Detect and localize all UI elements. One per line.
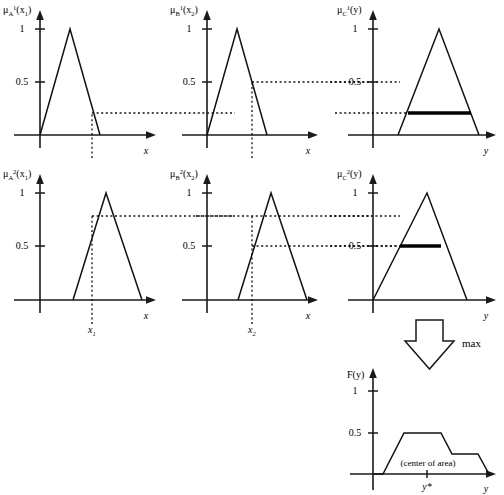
c2-ytick-label-1: 1 — [353, 187, 358, 198]
c1-ytick-label-1: 1 — [353, 23, 358, 34]
a1-y-axis-arrowhead — [36, 10, 44, 20]
c1-consequent-curve — [398, 29, 479, 135]
b2-x-axis-label: x — [305, 310, 311, 321]
out-axis-title: F(y) — [347, 369, 364, 381]
a1-x-axis-label: x — [143, 145, 149, 156]
a1-ytick-label-half: 0.5 — [16, 76, 29, 87]
b2-x-axis-arrowhead — [308, 296, 318, 304]
c2-y-axis-arrowhead — [369, 174, 377, 184]
fuzzy-inference-figure: μA1(x1) 1 0.5 x μB1(x2) 1 0.5 x — [0, 0, 504, 495]
b1-y-axis-arrowhead — [203, 10, 211, 20]
out-ytick-label-half: 0.5 — [349, 427, 362, 438]
panel-c2: μC2(y) 1 0.5 y — [330, 168, 496, 322]
a2-y-axis-arrowhead — [36, 174, 44, 184]
aggregation-arrow-group: max — [405, 320, 481, 369]
c1-x-axis-arrowhead — [486, 131, 496, 139]
b2-input-label-x2: x2 — [247, 324, 256, 337]
c1-y-axis-arrowhead — [369, 10, 377, 20]
a2-ytick-label-1: 1 — [20, 187, 25, 198]
c1-axis-title: μC1(y) — [337, 4, 362, 17]
a1-membership-curve — [40, 29, 100, 135]
a2-x-axis-label: x — [143, 310, 149, 321]
max-label: max — [462, 337, 481, 349]
a1-axis-title: μA1(x1) — [3, 4, 31, 17]
center-of-area-label: (center of area) — [401, 458, 456, 468]
b2-membership-curve — [238, 193, 307, 300]
a1-x-axis-arrowhead — [146, 131, 156, 139]
figure-canvas: μA1(x1) 1 0.5 x μB1(x2) 1 0.5 x — [0, 0, 504, 495]
panel-c1: μC1(y) 1 0.5 y — [330, 4, 496, 157]
b2-ytick-label-1: 1 — [187, 187, 192, 198]
max-down-arrow-icon — [405, 320, 454, 369]
out-y-axis-arrowhead — [369, 368, 377, 378]
c1-x-axis-label: y — [483, 145, 489, 156]
a1-ytick-label-1: 1 — [20, 23, 25, 34]
panel-output: F(y) 1 0.5 (center of area) y* y — [347, 368, 496, 494]
c1-ytick-label-half: 0.5 — [349, 76, 362, 87]
b2-axis-title: μB2(x2) — [170, 168, 198, 181]
a2-x-axis-arrowhead — [146, 296, 156, 304]
a2-input-label-x1: x1 — [87, 324, 96, 337]
a2-membership-curve — [73, 193, 142, 300]
a2-ytick-label-half: 0.5 — [16, 240, 29, 251]
c2-x-axis-arrowhead — [486, 296, 496, 304]
b1-axis-title: μB1(x2) — [170, 4, 198, 17]
b1-x-axis-arrowhead — [308, 131, 318, 139]
b1-ytick-label-half: 0.5 — [183, 76, 196, 87]
b1-ytick-label-1: 1 — [187, 23, 192, 34]
c2-x-axis-label: y — [483, 310, 489, 321]
a2-axis-title: μA2(x1) — [3, 168, 31, 181]
c2-ytick-label-half: 0.5 — [349, 240, 362, 251]
out-x-axis-label: y — [483, 483, 489, 494]
panel-b2: μB2(x2) 1 0.5 x x2 — [170, 168, 400, 337]
b1-x-axis-label: x — [305, 145, 311, 156]
panel-a2: μA2(x1) 1 0.5 x x1 — [3, 168, 235, 337]
b2-y-axis-arrowhead — [203, 174, 211, 184]
out-ystar-label: y* — [421, 481, 431, 492]
c2-axis-title: μC2(y) — [337, 168, 362, 181]
out-ytick-label-1: 1 — [353, 385, 358, 396]
b2-ytick-label-half: 0.5 — [183, 240, 196, 251]
